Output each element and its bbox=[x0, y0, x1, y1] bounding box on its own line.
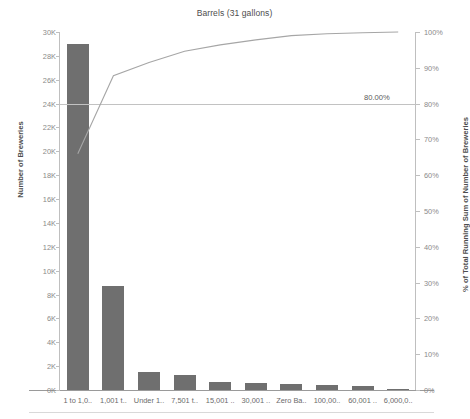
tick-mark bbox=[416, 283, 420, 284]
y-axis-left-tick-label: 2K bbox=[47, 362, 56, 371]
x-axis-tick-label[interactable]: 6,000,0.. bbox=[384, 396, 413, 405]
chart-title: Barrels (31 gallons) bbox=[0, 8, 469, 18]
cumulative-line-series bbox=[60, 32, 416, 390]
tick-mark bbox=[416, 354, 420, 355]
y-axis-right-tick-label: 90% bbox=[424, 63, 439, 72]
x-axis-line bbox=[29, 390, 434, 391]
y-axis-left-tick-label: 12K bbox=[43, 242, 56, 251]
tick-mark bbox=[416, 68, 420, 69]
y-axis-left-tick-label: 8K bbox=[47, 290, 56, 299]
y-axis-left-tick-label: 4K bbox=[47, 338, 56, 347]
y-axis-left-tick-label: 30K bbox=[43, 28, 56, 37]
x-axis-tick-label[interactable]: 7,501 t.. bbox=[171, 396, 198, 405]
tick-mark bbox=[416, 318, 420, 319]
y-axis-left-tick-label: 28K bbox=[43, 51, 56, 60]
y-axis-left-tick-label: 16K bbox=[43, 195, 56, 204]
y-axis-right-tick-label: 100% bbox=[424, 28, 443, 37]
y-axis-left-tick-label: 24K bbox=[43, 99, 56, 108]
y-axis-right-tick-label: 20% bbox=[424, 314, 439, 323]
y-axis-left-tick-label: 10K bbox=[43, 266, 56, 275]
tick-mark bbox=[416, 175, 420, 176]
y-axis-left-tick-label: 18K bbox=[43, 171, 56, 180]
y-axis-left-tick-label: 14K bbox=[43, 218, 56, 227]
y-axis-right-title: % of Total Running Sum of Number of Brew… bbox=[461, 40, 470, 370]
tick-mark bbox=[416, 32, 420, 33]
y-axis-left-tick-label: 22K bbox=[43, 123, 56, 132]
x-axis-tick-label[interactable]: Under 1.. bbox=[134, 396, 164, 405]
x-axis-tick-label[interactable]: 1 to 1,0.. bbox=[63, 396, 92, 405]
tick-mark bbox=[416, 247, 420, 248]
tick-mark bbox=[416, 139, 420, 140]
x-axis-baseline-secondary bbox=[29, 412, 434, 413]
y-axis-right-tick-label: 40% bbox=[424, 242, 439, 251]
x-axis-tick-label[interactable]: Zero Ba.. bbox=[276, 396, 306, 405]
y-axis-left-tick-label: 0K bbox=[47, 386, 56, 395]
x-axis-tick-label[interactable]: 30,001 .. bbox=[241, 396, 270, 405]
tick-mark bbox=[56, 390, 60, 391]
tick-mark bbox=[416, 390, 420, 391]
x-axis-tick-label[interactable]: 100,00.. bbox=[314, 396, 341, 405]
y-axis-left-title: Number of Breweries bbox=[16, 80, 25, 240]
plot-area: 0K2K4K6K8K10K12K14K16K18K20K22K24K26K28K… bbox=[60, 32, 415, 390]
y-axis-left-tick-label: 26K bbox=[43, 75, 56, 84]
y-axis-right-tick-label: 0% bbox=[424, 386, 435, 395]
y-axis-right-tick-label: 60% bbox=[424, 171, 439, 180]
y-axis-right-tick-label: 70% bbox=[424, 135, 439, 144]
tick-mark bbox=[416, 211, 420, 212]
tick-mark bbox=[416, 104, 420, 105]
y-axis-right-tick-label: 80% bbox=[424, 99, 439, 108]
x-axis-tick-label[interactable]: 1,001 t.. bbox=[100, 396, 127, 405]
y-axis-right-tick-label: 10% bbox=[424, 350, 439, 359]
x-axis-tick-label[interactable]: 15,001 .. bbox=[206, 396, 235, 405]
y-axis-left-tick-label: 6K bbox=[47, 314, 56, 323]
y-axis-right-tick-label: 50% bbox=[424, 207, 439, 216]
x-axis-tick-label[interactable]: 60,001 .. bbox=[348, 396, 377, 405]
y-axis-right-tick-label: 30% bbox=[424, 278, 439, 287]
y-axis-left-tick-label: 20K bbox=[43, 147, 56, 156]
